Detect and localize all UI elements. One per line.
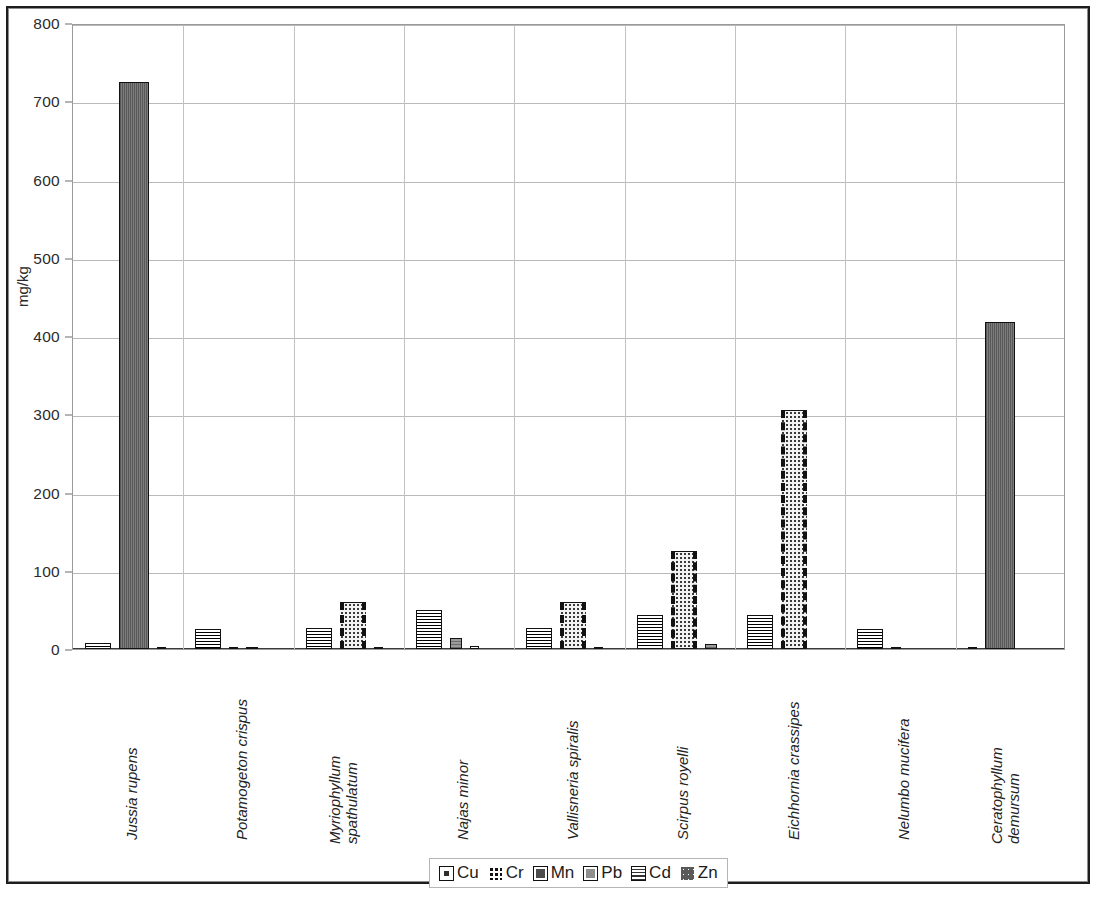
x-axis-label: Jussia rupens (123, 747, 140, 840)
bar-pb (246, 647, 258, 649)
bar-cr (229, 647, 238, 649)
chart-page: mg/kg 0100200300400500600700800 Jussia r… (0, 0, 1109, 897)
legend-item-zn: Zn (680, 863, 718, 883)
bar-zn (340, 602, 366, 649)
y-axis-tick-label: 800 (33, 15, 60, 33)
legend-label: Cu (457, 863, 479, 883)
bar-cr (374, 647, 383, 649)
bar-group (514, 25, 624, 649)
x-axis-label: Scirpus royelli (674, 747, 691, 840)
bar-group (956, 25, 1066, 649)
x-axis-label: Myriophyllumspathulatum (326, 694, 361, 844)
bar-group (625, 25, 735, 649)
bar-pb (450, 638, 462, 649)
bar-cd (891, 647, 901, 649)
legend-swatch-pb-icon (583, 866, 598, 881)
y-axis-tick-label: 700 (33, 93, 60, 111)
legend-label: Cr (506, 863, 524, 883)
bar-cr (594, 647, 603, 649)
legend-item-cu: Cu (439, 863, 479, 883)
y-axis-tick-mark (65, 102, 72, 103)
bar-group (294, 25, 404, 649)
bar-zn (671, 551, 697, 649)
legend-swatch-cu-icon (439, 866, 454, 881)
y-axis-tick-label: 500 (33, 250, 60, 268)
y-axis-tick-mark (65, 571, 72, 572)
bar-cr (157, 647, 166, 649)
legend-item-mn: Mn (533, 863, 575, 883)
y-axis-tick-mark (65, 180, 72, 181)
legend-swatch-zn-icon (680, 866, 695, 881)
x-axis-label-line: demursum (1005, 694, 1022, 844)
legend-label: Cd (649, 863, 671, 883)
bar-group (73, 25, 183, 649)
legend-swatch-mn-icon (533, 866, 548, 881)
y-axis: mg/kg 0100200300400500600700800 (0, 24, 72, 650)
x-axis-label: Potamogeton crispus (233, 699, 250, 840)
bar-zn (781, 410, 807, 649)
bar-mn (119, 82, 149, 649)
y-axis-tick-label: 0 (51, 641, 60, 659)
legend-swatch-cd-icon (631, 866, 646, 881)
plot-inner (73, 25, 1064, 649)
legend-label: Mn (551, 863, 575, 883)
legend-item-pb: Pb (583, 863, 622, 883)
bar-cu (195, 629, 221, 649)
bar-group (183, 25, 293, 649)
legend-item-cr: Cr (488, 863, 524, 883)
y-axis-tick-mark (65, 258, 72, 259)
y-axis-tick-label: 200 (33, 485, 60, 503)
bar-group (404, 25, 514, 649)
bar-cu (526, 628, 552, 649)
plot-area (72, 24, 1065, 650)
y-axis-tick-label: 600 (33, 172, 60, 190)
y-axis-tick-mark (65, 24, 72, 25)
y-axis-tick-label: 400 (33, 328, 60, 346)
legend-label: Zn (698, 863, 718, 883)
legend-label: Pb (601, 863, 622, 883)
bar-cu (85, 643, 111, 649)
bar-cr (968, 647, 977, 649)
x-axis-label-line: Ceratophyllum (988, 694, 1005, 844)
x-axis-label: Ceratophyllumdemursum (988, 694, 1023, 844)
x-axis-label: Nelumbo mucifera (895, 718, 912, 840)
bar-cu (857, 629, 883, 649)
y-axis-tick-mark (65, 650, 72, 651)
x-axis-label: Vallisneria spiralis (564, 721, 581, 841)
chart-legend: CuCrMnPbCdZn (429, 858, 728, 888)
y-axis-title: mg/kg (14, 266, 31, 307)
bar-cu (306, 628, 332, 649)
y-axis-tick-mark (65, 337, 72, 338)
bar-cu (637, 615, 663, 649)
bar-group (735, 25, 845, 649)
y-axis-tick-mark (65, 493, 72, 494)
y-axis-tick-label: 100 (33, 563, 60, 581)
bar-cr (470, 646, 479, 649)
bar-mn (985, 322, 1015, 649)
bar-cu (747, 615, 773, 649)
bar-zn (560, 602, 586, 649)
x-axis-label-line: spathulatum (343, 694, 360, 844)
y-axis-tick-label: 300 (33, 406, 60, 424)
x-axis-label-line: Myriophyllum (326, 694, 343, 844)
y-axis-tick-mark (65, 415, 72, 416)
bar-pb (705, 644, 717, 649)
x-axis-label: Najas minor (454, 760, 471, 840)
x-axis-labels: Jussia rupensPotamogeton crispusMyriophy… (72, 654, 1065, 844)
legend-swatch-cr-icon (488, 866, 503, 881)
bar-cu (416, 610, 442, 649)
legend-item-cd: Cd (631, 863, 671, 883)
x-axis-label: Eichhornia crassipes (785, 702, 802, 840)
bar-group (845, 25, 955, 649)
